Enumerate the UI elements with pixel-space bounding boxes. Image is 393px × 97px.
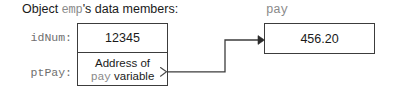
pay-label-text: pay: [266, 3, 288, 17]
pay-variable-box: 456.20: [264, 23, 375, 54]
member-label-idnum: idNum:: [10, 31, 72, 44]
figure-caption: Object emp's data members:: [22, 2, 178, 18]
pay-value: 456.20: [300, 32, 338, 46]
object-emp-box: 12345 Address of pay variable: [77, 23, 168, 86]
ptpay-text-variable: variable: [111, 70, 154, 82]
ptpay-value-line2: pay variable: [91, 70, 155, 84]
pay-variable-label: pay: [266, 2, 288, 17]
caption-prefix: Object: [22, 2, 62, 16]
object-cell-idnum: 12345: [78, 24, 167, 53]
ptpay-value-line1: Address of: [91, 57, 155, 71]
member-label-ptpay: ptPay:: [10, 66, 72, 79]
idnum-value: 12345: [105, 31, 140, 45]
object-cell-ptpay: Address of pay variable: [78, 53, 167, 87]
ptpay-code-pay: pay: [91, 70, 111, 83]
pointer-diagram: Object emp's data members: idNum: ptPay:…: [0, 0, 393, 97]
caption-code-emp: emp: [62, 3, 83, 17]
connector-line: [168, 40, 259, 72]
ptpay-value-wrapper: Address of pay variable: [89, 57, 157, 84]
caption-suffix: 's data members:: [83, 2, 178, 16]
